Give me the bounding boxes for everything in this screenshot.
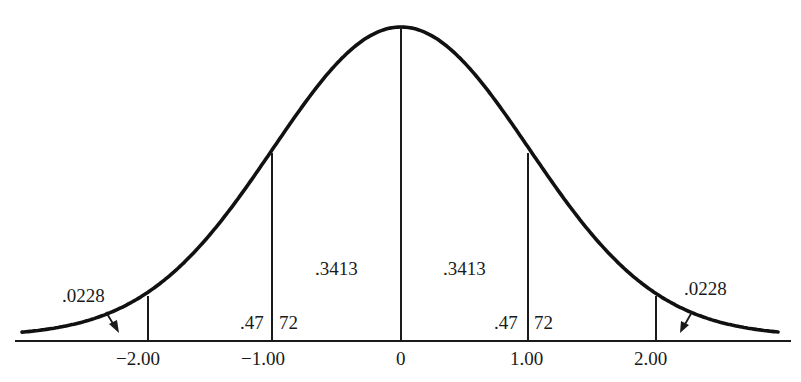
tick-label-pos1: 1.00 [510, 349, 543, 368]
tick-label-neg1: −1.00 [241, 349, 285, 368]
normal-distribution-diagram [0, 0, 801, 382]
tail-right-area-label: .0228 [684, 279, 727, 298]
split-left-b-label: 72 [279, 313, 298, 332]
area-left-center-label: .3413 [315, 259, 358, 278]
tick-label-pos2: 2.00 [634, 349, 667, 368]
tail-left-area-label: .0228 [62, 286, 105, 305]
tick-label-neg2: −2.00 [116, 349, 160, 368]
tick-label-zero: 0 [396, 349, 406, 368]
area-right-center-label: .3413 [443, 259, 486, 278]
split-left-a-label: .47 [240, 313, 264, 332]
arrow-right-tail-icon [680, 312, 692, 333]
split-right-b-label: 72 [534, 313, 553, 332]
arrow-left-tail-icon [106, 312, 119, 333]
split-right-a-label: .47 [494, 313, 518, 332]
